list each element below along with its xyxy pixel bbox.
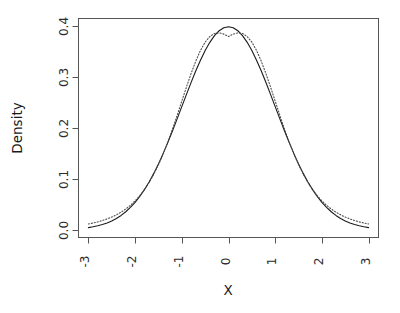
x-tick-label: 3 — [359, 258, 373, 266]
y-tick-label: 0.2 — [57, 119, 71, 138]
density-plot-figure: -3-2-10123 0.00.10.20.30.4 X Density — [0, 0, 400, 313]
y-tick-label: 0.1 — [57, 170, 71, 189]
x-tick-label: -1 — [172, 256, 186, 268]
x-tick-label: 2 — [312, 258, 326, 266]
y-tick-label: 0.4 — [57, 17, 71, 36]
y-axis-title: Density — [9, 102, 25, 153]
x-tick-label: 0 — [219, 258, 233, 266]
plot-canvas: -3-2-10123 0.00.10.20.30.4 X Density — [0, 0, 400, 313]
y-tick-label: 0.3 — [57, 68, 71, 87]
y-tick-label: 0.0 — [57, 221, 71, 240]
x-axis-title: X — [223, 282, 232, 298]
x-tick-label: -2 — [125, 256, 139, 268]
x-tick-label: 1 — [265, 258, 279, 266]
x-tick-label: -3 — [78, 256, 92, 268]
figure-background — [0, 0, 400, 313]
